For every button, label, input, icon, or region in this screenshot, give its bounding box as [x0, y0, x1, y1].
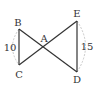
segment-ec: [19, 21, 77, 65]
label-d: D: [73, 74, 81, 85]
bowtie-diagram: B C A E D 10 15: [0, 0, 97, 86]
segment-bd: [19, 29, 77, 72]
measure-bc: 10: [4, 42, 17, 53]
label-e: E: [73, 8, 80, 19]
label-a: A: [39, 33, 48, 44]
measure-ed: 15: [81, 41, 94, 52]
label-b: B: [14, 17, 21, 28]
label-c: C: [15, 69, 23, 80]
